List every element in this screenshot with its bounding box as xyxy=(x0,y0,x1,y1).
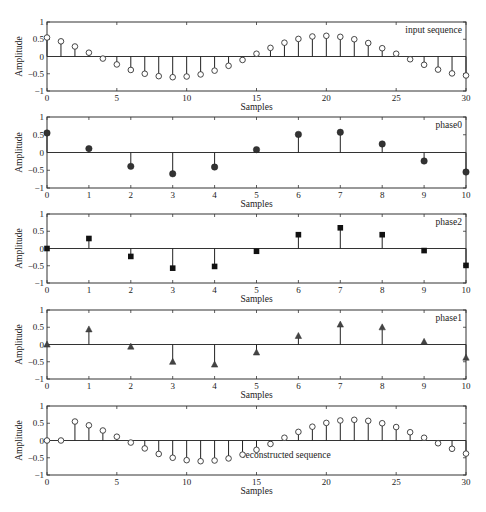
y-tick-label: −0.5 xyxy=(28,453,45,463)
x-tick-label: 1 xyxy=(87,381,92,391)
marker-circle-open xyxy=(198,458,204,464)
marker-circle-filled xyxy=(44,130,50,136)
marker-triangle-filled xyxy=(379,324,385,330)
x-tick-label: 1 xyxy=(87,285,92,295)
x-tick-label: 30 xyxy=(462,477,472,487)
stem-point xyxy=(170,345,176,365)
stem-point xyxy=(240,57,246,63)
stem-point xyxy=(128,57,134,73)
marker-circle-filled xyxy=(128,163,134,169)
stem-point xyxy=(253,345,259,356)
stem-point xyxy=(198,57,204,78)
stem-point xyxy=(435,440,441,446)
stem-point xyxy=(128,249,134,260)
y-axis-label: Amplitude xyxy=(14,228,24,269)
marker-triangle-filled xyxy=(170,358,176,364)
x-tick-label: 9 xyxy=(422,381,427,391)
y-tick-label: −1 xyxy=(34,86,44,96)
stem-point xyxy=(184,57,190,80)
stem-point xyxy=(44,246,50,252)
x-tick-label: 6 xyxy=(296,190,301,200)
stem-point xyxy=(226,57,232,69)
stem-point xyxy=(211,345,217,368)
stem-point xyxy=(338,225,344,249)
stem-point xyxy=(310,424,316,441)
stem-point xyxy=(463,249,469,269)
y-tick-label: 0 xyxy=(40,52,45,62)
stem-point xyxy=(198,441,204,465)
x-axis-label: Samples xyxy=(240,199,272,209)
stem-point xyxy=(295,131,301,152)
stem-point xyxy=(296,36,302,56)
marker-square-filled xyxy=(170,265,176,271)
y-tick-label: 0.5 xyxy=(33,34,45,44)
stem-point xyxy=(100,56,106,62)
stem-point xyxy=(86,145,92,152)
marker-circle-open xyxy=(72,419,78,425)
stem-point xyxy=(268,45,274,56)
marker-circle-filled xyxy=(295,131,301,137)
stem-point xyxy=(393,51,399,57)
marker-triangle-filled xyxy=(295,332,301,338)
stem-point xyxy=(379,420,385,440)
x-tick-label: 3 xyxy=(170,381,175,391)
marker-circle-open xyxy=(351,417,357,423)
stem-point xyxy=(338,34,344,56)
stem-point xyxy=(86,423,92,441)
x-axis-label: Samples xyxy=(240,486,272,496)
panel-phase0: 012345678910−1−0.500.51SamplesAmplitudep… xyxy=(14,112,471,209)
y-tick-label: −0.5 xyxy=(28,165,45,175)
stem-point xyxy=(170,441,176,461)
marker-circle-filled xyxy=(463,169,469,175)
x-tick-label: 8 xyxy=(380,285,385,295)
stem-point xyxy=(407,429,413,440)
x-tick-label: 2 xyxy=(129,381,134,391)
x-tick-label: 30 xyxy=(462,93,472,103)
x-tick-label: 3 xyxy=(170,190,175,200)
marker-circle-filled xyxy=(170,171,176,177)
marker-square-filled xyxy=(44,246,50,252)
marker-circle-open xyxy=(338,418,344,424)
stem-point xyxy=(449,441,455,452)
marker-square-filled xyxy=(128,254,134,260)
stem-point xyxy=(379,45,385,56)
stem-point xyxy=(337,321,343,344)
stem-point xyxy=(212,441,218,464)
marker-triangle-filled xyxy=(211,361,217,367)
stem-point xyxy=(156,57,162,79)
marker-circle-open xyxy=(324,420,330,426)
marker-circle-open xyxy=(226,63,232,69)
legend-label: phase0 xyxy=(436,120,463,130)
marker-square-filled xyxy=(212,264,218,270)
y-axis-label: Amplitude xyxy=(14,132,24,173)
marker-circle-open xyxy=(156,451,162,457)
x-tick-label: 25 xyxy=(392,93,402,103)
marker-circle-open xyxy=(296,36,302,42)
stem-point xyxy=(268,441,274,447)
marker-circle-open xyxy=(268,441,274,447)
x-axis-label: Samples xyxy=(240,294,272,304)
marker-circle-open xyxy=(72,44,78,50)
stem-point xyxy=(254,51,260,57)
marker-circle-open xyxy=(240,57,246,63)
x-tick-label: 6 xyxy=(296,381,301,391)
stem-point xyxy=(407,56,413,62)
stem-point xyxy=(44,438,50,444)
stem-point xyxy=(338,418,344,441)
stem-point xyxy=(86,50,92,57)
x-tick-label: 0 xyxy=(45,190,50,200)
marker-circle-open xyxy=(58,438,64,444)
stem-point xyxy=(449,57,455,77)
marker-circle-open xyxy=(128,440,134,446)
marker-circle-filled xyxy=(337,129,343,135)
legend-label: phase2 xyxy=(436,217,463,227)
marker-circle-open xyxy=(435,67,441,73)
y-tick-label: 0.5 xyxy=(33,418,45,428)
x-tick-label: 8 xyxy=(380,381,385,391)
x-tick-label: 2 xyxy=(129,285,134,295)
marker-circle-open xyxy=(142,446,148,452)
y-tick-label: −1 xyxy=(34,374,44,384)
marker-square-filled xyxy=(254,248,260,254)
stem-point xyxy=(254,248,260,254)
stem-point xyxy=(393,424,399,440)
